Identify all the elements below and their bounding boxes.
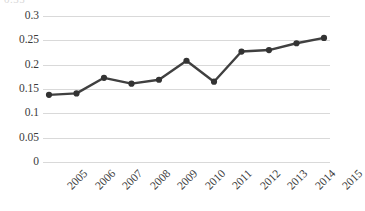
x-axis-tick-label: 2012 — [257, 167, 282, 192]
x-axis-tick-label: 2009 — [175, 167, 200, 192]
x-axis-tick-label: 2015 — [340, 167, 365, 192]
x-axis-tick-label: 2008 — [147, 167, 172, 192]
x-axis-tick-label: 2014 — [312, 167, 337, 192]
x-axis-tick-label: 2010 — [202, 167, 227, 192]
x-axis-tick-label: 2007 — [120, 167, 145, 192]
x-axis-tick-label: 2013 — [285, 167, 310, 192]
x-axis-tick-label: 2005 — [65, 167, 90, 192]
x-axis-tick-label: 2011 — [230, 167, 254, 191]
x-axis-tick-label: 2006 — [92, 167, 117, 192]
